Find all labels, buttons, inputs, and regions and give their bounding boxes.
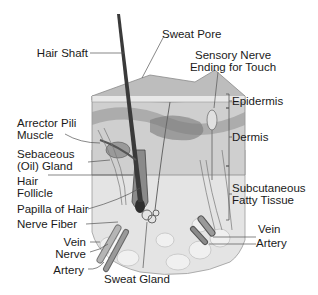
label-sensory-line1: Sensory Nerve [178,49,288,61]
label-sebaceous-line2: (Oil) Gland [17,160,75,172]
label-hair-shaft: Hair Shaft [0,47,88,59]
label-sweat-pore: Sweat Pore [162,28,221,40]
label-sebaceous-line1: Sebaceous [17,148,75,160]
label-vein-left: Vein [0,236,86,248]
label-arrector-pili-line1: Arrector Pili [17,117,76,129]
label-artery-left: Artery [0,264,84,276]
label-sebaceous-gland: Sebaceous (Oil) Gland [17,148,75,172]
label-vein-right: Vein [258,223,280,235]
label-arrector-pili-line2: Muscle [17,129,76,141]
label-nerve: Nerve [0,248,86,260]
label-hair-follicle-line2: Follicle [17,187,53,199]
label-artery-right: Artery [256,237,287,249]
label-subcutaneous-line1: Subcutaneous [232,182,306,194]
label-sensory-nerve: Sensory Nerve Ending for Touch [178,49,288,73]
label-sweat-gland: Sweat Gland [104,273,170,285]
label-epidermis: Epidermis [232,95,283,107]
label-subcutaneous: Subcutaneous Fatty Tissue [232,182,306,206]
label-hair-follicle: Hair Follicle [17,175,53,199]
label-dermis: Dermis [232,131,268,143]
label-papilla-of-hair: Papilla of Hair [17,203,89,215]
label-subcutaneous-line2: Fatty Tissue [232,194,306,206]
label-hair-follicle-line1: Hair [17,175,53,187]
label-sensory-line2: Ending for Touch [178,61,288,73]
label-nerve-fiber: Nerve Fiber [17,218,77,230]
skin-diagram: Hair Shaft Arrector Pili Muscle Sebaceou… [0,0,318,295]
label-arrector-pili: Arrector Pili Muscle [17,117,76,141]
